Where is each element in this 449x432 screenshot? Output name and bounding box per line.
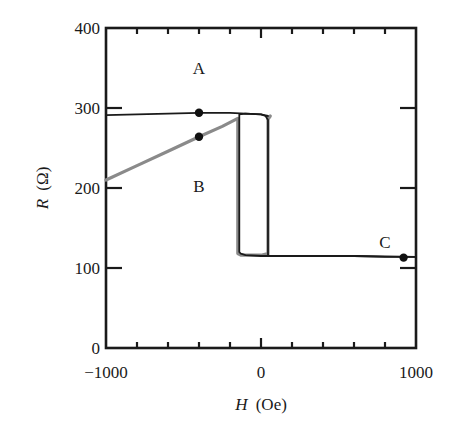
axis-tick-labels: 0100200300400−100001000 <box>75 19 434 382</box>
marker-point-a <box>195 109 203 117</box>
annotation-a: A <box>193 59 206 78</box>
y-tick-label: 300 <box>75 99 101 118</box>
y-tick-label: 100 <box>75 259 101 278</box>
data-series-line <box>106 116 270 255</box>
x-tick-label: −1000 <box>84 363 128 382</box>
y-tick-label: 0 <box>92 339 101 358</box>
y-tick-label: 200 <box>75 179 101 198</box>
marker-point-c <box>399 253 407 261</box>
y-tick-label: 400 <box>75 19 101 38</box>
annotation-c: C <box>379 233 390 252</box>
plot-frame <box>106 28 416 348</box>
marker-point-b <box>195 133 203 141</box>
hysteresis-chart: 0100200300400−100001000 ABC H (Oe) R (Ω) <box>0 0 449 432</box>
marker-points <box>195 109 408 262</box>
annotation-b: B <box>193 177 204 196</box>
axis-ticks <box>106 28 416 348</box>
x-tick-label: 0 <box>257 363 266 382</box>
x-axis-var: H <box>234 395 249 414</box>
x-axis-unit: (Oe) <box>256 395 287 414</box>
y-axis-var: R <box>33 198 52 210</box>
series-layer <box>106 113 416 257</box>
plot-border <box>106 28 416 348</box>
y-axis-title: R (Ω) <box>33 167 52 211</box>
data-series-line <box>106 113 416 257</box>
point-annotations: ABC <box>193 59 391 252</box>
y-axis-unit: (Ω) <box>33 167 52 191</box>
x-tick-label: 1000 <box>399 363 433 382</box>
x-axis-title: H (Oe) <box>234 395 287 414</box>
